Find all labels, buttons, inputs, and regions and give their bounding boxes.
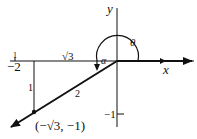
alpha-label: α — [101, 55, 106, 67]
point-marker — [32, 110, 36, 114]
x-neg2-label: −2 — [7, 61, 21, 73]
horizontal-side-label: √3 — [62, 50, 74, 62]
unit-circle-reference-angle-diagram: y x 1 −2 −1 √3 1 2 θ α (−√3, −1) — [0, 0, 197, 139]
y-neg1-label: −1 — [104, 108, 116, 120]
theta-label: θ — [130, 36, 135, 48]
vertical-side-label: 1 — [28, 82, 33, 94]
theta-arc-arrow-icon — [94, 64, 100, 71]
x-axis-label: x — [163, 64, 169, 76]
point-coordinates-label: (−√3, −1) — [35, 120, 85, 132]
y-axis-label: y — [107, 3, 113, 15]
hypotenuse-label: 2 — [75, 88, 80, 100]
